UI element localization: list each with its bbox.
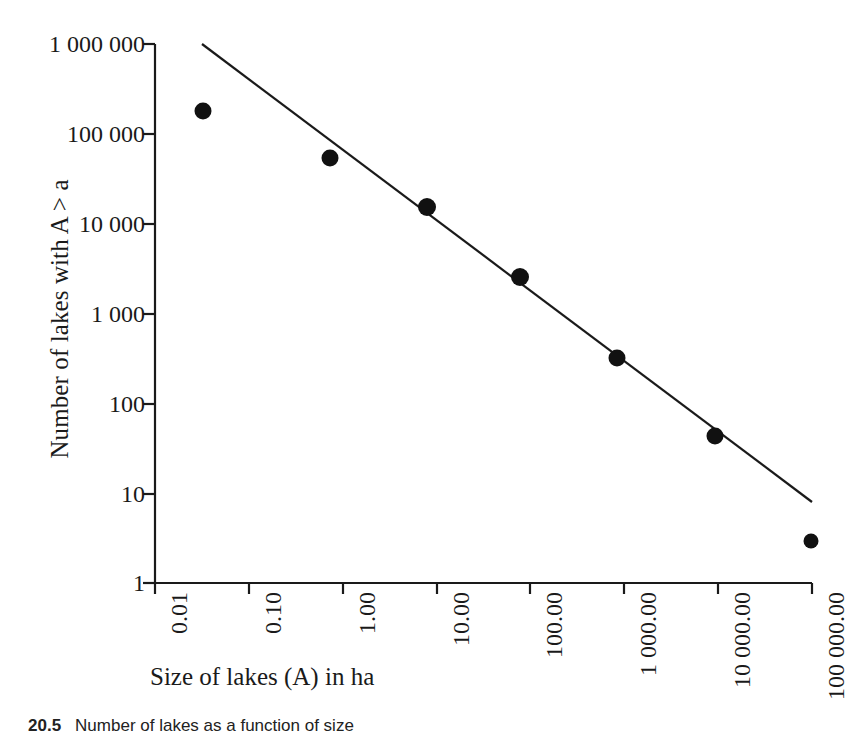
figure-caption: 20.5Number of lakes as a function of siz… bbox=[28, 716, 354, 736]
x-tick-label: 10.00 bbox=[449, 592, 473, 646]
x-tick-label: 1 000.00 bbox=[636, 592, 660, 676]
figure-caption-text: Number of lakes as a function of size bbox=[75, 716, 354, 735]
x-tick-label: 0.01 bbox=[167, 592, 191, 634]
figure-caption-number: 20.5 bbox=[28, 716, 61, 735]
x-tick-label: 100 000.00 bbox=[824, 592, 848, 700]
x-tick-label: 100.00 bbox=[542, 592, 566, 658]
x-tick-label: 10 000.00 bbox=[730, 592, 754, 688]
x-tick-label: 0.10 bbox=[261, 592, 285, 634]
figure-container: 1 000 000 100 000 10 000 1 000 100 10 1 … bbox=[0, 0, 852, 736]
x-axis-title: Size of lakes (A) in ha bbox=[150, 663, 374, 691]
x-axis-tick-labels: 0.01 0.10 1.00 10.00 100.00 1 000.00 10 … bbox=[0, 0, 852, 736]
x-tick-label: 1.00 bbox=[355, 592, 379, 634]
